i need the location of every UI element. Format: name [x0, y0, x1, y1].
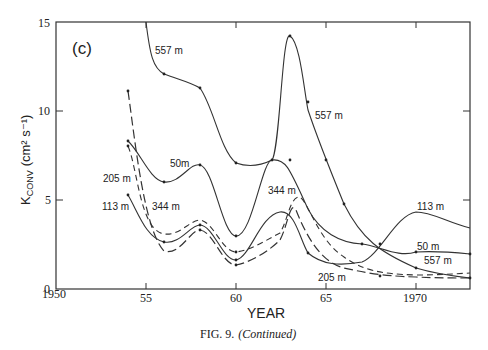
svg-text:KCONV(cm² s⁻¹): KCONV(cm² s⁻¹) — [18, 115, 35, 205]
y-tick-label: 15 — [38, 16, 50, 30]
curve-label-344m-left: 344 m — [152, 201, 180, 212]
curve-label-557m-right: 557 m — [424, 255, 452, 266]
x-tick-label: 1970 — [403, 291, 427, 305]
y-axis-label: KCONV(cm² s⁻¹) — [18, 115, 35, 205]
curve-label-50m-right: 50 m — [417, 241, 439, 252]
x-axis-label: YEAR — [247, 305, 285, 321]
panel-label: (c) — [72, 39, 92, 58]
x-tick-label: 65 — [320, 291, 332, 305]
y-ticks — [56, 111, 470, 200]
curve-label-557m-top: 557 m — [155, 45, 183, 56]
curve-label-557m-mid: 557 m — [315, 110, 343, 121]
series-557m — [146, 22, 470, 278]
curve-label-205m-bottom: 205 m — [318, 272, 346, 283]
x-tick-label: 60 — [230, 291, 242, 305]
y-tick-label: 5 — [45, 193, 51, 207]
y-tick-label: 10 — [38, 104, 50, 118]
chart: 1950 55 60 65 1970 0 5 10 15 (c) KCONV(c… — [0, 0, 488, 350]
curve-label-113m-right: 113 m — [417, 201, 444, 212]
curve-label-344m-mid: 344 m — [268, 185, 296, 196]
curve-label-50m-left: 50m — [170, 158, 189, 169]
x-ticks — [146, 22, 416, 289]
curve-label-205m-left: 205 m — [103, 173, 131, 184]
plot-frame — [56, 22, 470, 289]
x-tick-label: 55 — [140, 291, 152, 305]
curve-label-113m-left: 113 m — [102, 201, 129, 212]
figure-caption: FIG. 9.(Continued) — [200, 327, 296, 341]
y-tick-label: 0 — [44, 282, 50, 296]
